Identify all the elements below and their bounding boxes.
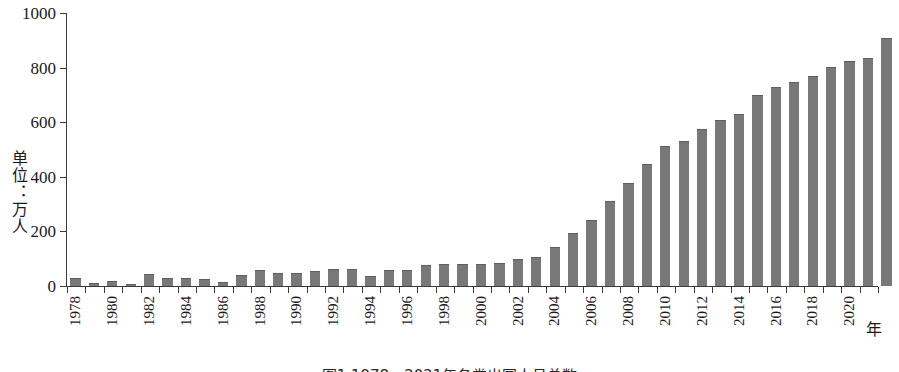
bar bbox=[236, 275, 246, 286]
bar bbox=[531, 257, 541, 286]
bar bbox=[881, 38, 891, 286]
x-axis-tick bbox=[731, 287, 732, 293]
x-axis-tick bbox=[546, 287, 547, 293]
x-axis-tick-label: 1980 bbox=[105, 296, 120, 326]
x-axis-tick bbox=[509, 287, 510, 293]
bar bbox=[679, 141, 689, 286]
x-axis-tick-label: 2012 bbox=[695, 296, 710, 326]
x-axis-tick bbox=[67, 287, 68, 293]
y-axis-tick bbox=[60, 231, 66, 232]
y-axis-tick-label: 400 bbox=[0, 168, 56, 188]
bar bbox=[826, 67, 836, 286]
x-axis-tick-label: 2020 bbox=[842, 296, 857, 326]
bar bbox=[347, 269, 357, 286]
x-axis-tick-label: 1984 bbox=[179, 296, 194, 326]
x-axis-tick bbox=[804, 287, 805, 293]
x-axis-title: 年 bbox=[866, 316, 882, 340]
x-axis-tick-label: 1992 bbox=[326, 296, 341, 326]
x-axis-tick bbox=[417, 287, 418, 293]
x-axis-tick-label: 1978 bbox=[68, 296, 83, 326]
bar bbox=[89, 283, 99, 286]
x-axis-tick bbox=[141, 287, 142, 293]
x-axis-tick bbox=[638, 287, 639, 293]
x-axis-tick-label: 1988 bbox=[253, 296, 268, 326]
bar bbox=[642, 164, 652, 286]
bar bbox=[218, 282, 228, 286]
bar bbox=[586, 220, 596, 286]
x-axis-tick bbox=[104, 287, 105, 293]
y-axis-tick-label: 1000 bbox=[0, 4, 56, 24]
x-axis-tick bbox=[251, 287, 252, 293]
x-axis-tick bbox=[841, 287, 842, 293]
x-axis-tick-label: 1986 bbox=[216, 296, 231, 326]
bar bbox=[107, 281, 117, 286]
x-axis-tick-label: 1990 bbox=[289, 296, 304, 326]
bar bbox=[384, 270, 394, 286]
x-axis-tick-label: 1982 bbox=[142, 296, 157, 326]
x-axis-tick-label: 2006 bbox=[584, 296, 599, 326]
x-axis-tick bbox=[473, 287, 474, 293]
bar bbox=[844, 61, 854, 286]
x-axis-tick bbox=[565, 287, 566, 293]
x-axis-tick-label: 1998 bbox=[437, 296, 452, 326]
bar bbox=[181, 278, 191, 286]
x-axis-tick bbox=[178, 287, 179, 293]
x-axis-tick bbox=[325, 287, 326, 293]
x-axis-tick-label: 2004 bbox=[547, 296, 562, 326]
bar bbox=[660, 146, 670, 286]
x-axis-tick bbox=[343, 287, 344, 293]
x-axis-tick-label: 2000 bbox=[474, 296, 489, 326]
bar bbox=[421, 265, 431, 286]
x-axis-tick bbox=[307, 287, 308, 293]
x-axis-tick bbox=[694, 287, 695, 293]
bar bbox=[255, 270, 265, 286]
bar bbox=[771, 87, 781, 286]
figure-caption: 图1 1978—2021年各类出国人员总数 bbox=[0, 364, 899, 372]
y-axis-tick bbox=[60, 177, 66, 178]
bar bbox=[457, 264, 467, 286]
bar bbox=[494, 263, 504, 286]
bar-chart-figure: 单位：万人 02004006008001000 1978198019821984… bbox=[0, 0, 899, 372]
bar bbox=[623, 183, 633, 286]
bar bbox=[291, 273, 301, 286]
bar bbox=[808, 76, 818, 286]
x-axis-tick bbox=[620, 287, 621, 293]
bar bbox=[328, 269, 338, 286]
plot-area bbox=[66, 13, 878, 287]
x-axis-tick bbox=[528, 287, 529, 293]
bar bbox=[863, 58, 873, 286]
x-axis-tick-label: 2014 bbox=[732, 296, 747, 326]
x-axis-tick bbox=[436, 287, 437, 293]
x-axis-tick-label: 2010 bbox=[658, 296, 673, 326]
x-axis-tick bbox=[712, 287, 713, 293]
x-axis-tick-label: 2002 bbox=[511, 296, 526, 326]
x-axis-tick bbox=[767, 287, 768, 293]
y-axis-tick-label: 600 bbox=[0, 113, 56, 133]
bar bbox=[476, 264, 486, 286]
y-axis-tick-label: 800 bbox=[0, 59, 56, 79]
x-axis-tick bbox=[749, 287, 750, 293]
bar bbox=[310, 271, 320, 286]
bar-series bbox=[67, 13, 878, 286]
bar bbox=[144, 274, 154, 286]
x-axis-tick bbox=[159, 287, 160, 293]
bar bbox=[199, 279, 209, 286]
y-axis-tick-label: 0 bbox=[0, 277, 56, 297]
y-axis-tick bbox=[60, 122, 66, 123]
x-axis-tick bbox=[878, 287, 879, 293]
bar bbox=[752, 95, 762, 286]
x-axis-tick-label: 2016 bbox=[769, 296, 784, 326]
bar bbox=[715, 120, 725, 286]
x-axis-tick bbox=[399, 287, 400, 293]
bar bbox=[126, 284, 136, 286]
x-axis-tick bbox=[860, 287, 861, 293]
bar bbox=[70, 278, 80, 286]
x-axis-tick-label: 2008 bbox=[621, 296, 636, 326]
x-axis-tick bbox=[823, 287, 824, 293]
x-axis-tick bbox=[602, 287, 603, 293]
bar bbox=[605, 201, 615, 286]
bar bbox=[402, 270, 412, 286]
y-axis-tick bbox=[60, 286, 66, 287]
bar bbox=[734, 114, 744, 286]
bar bbox=[273, 273, 283, 286]
